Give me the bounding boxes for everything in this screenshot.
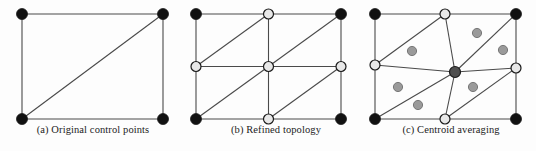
spoke-center-to-corner-top-right xyxy=(455,14,516,72)
node-midpoint-bottom xyxy=(264,114,274,124)
figure-container: (a) Original control points (b) Refined … xyxy=(0,0,536,151)
node-midpoint-top xyxy=(264,9,274,19)
centroid-marker-2 xyxy=(472,28,481,37)
node-corner-bottom-right xyxy=(158,114,169,125)
diagonal-quadrant-bottom-right xyxy=(269,67,342,120)
node-corner-bottom-left xyxy=(370,114,381,125)
node-midpoint-left xyxy=(191,62,201,72)
node-center-averaged xyxy=(450,67,461,78)
node-corner-top-right xyxy=(158,9,169,20)
centroid-marker-6 xyxy=(468,82,477,91)
centroid-marker-5 xyxy=(413,100,422,109)
node-midpoint-top xyxy=(440,9,450,19)
centroid-marker-4 xyxy=(393,82,402,91)
node-midpoint-left xyxy=(370,60,380,70)
node-corner-top-right xyxy=(336,9,347,20)
node-center xyxy=(264,62,274,72)
node-corner-top-left xyxy=(191,9,202,20)
diagonal-quadrant-top-right xyxy=(269,14,342,67)
panel-a-original-control-points: (a) Original control points xyxy=(0,0,186,151)
diagonal-quadrant-bottom-left xyxy=(196,67,269,120)
spoke-center-to-midpoint-right xyxy=(455,68,516,72)
node-corner-top-right xyxy=(511,9,522,20)
node-midpoint-bottom xyxy=(440,114,450,124)
node-midpoint-right xyxy=(511,63,521,73)
spoke-center-to-midpoint-left xyxy=(375,65,455,72)
node-corner-bottom-right xyxy=(336,114,347,125)
spoke-center-to-midpoint-bottom xyxy=(445,72,455,119)
diagonal-quadrant-top-left xyxy=(196,14,269,67)
spoke-center-to-midpoint-top xyxy=(445,14,455,72)
node-corner-top-left xyxy=(370,9,381,20)
node-midpoint-right xyxy=(336,62,346,72)
panel-a-caption: (a) Original control points xyxy=(0,124,186,135)
node-corner-top-left xyxy=(17,9,28,20)
centroid-marker-1 xyxy=(407,46,416,55)
centroid-marker-3 xyxy=(498,45,507,54)
node-corner-bottom-left xyxy=(17,114,28,125)
node-corner-bottom-right xyxy=(511,114,522,125)
panel-b-caption: (b) Refined topology xyxy=(186,124,366,135)
spoke-center-to-corner-bottom-left xyxy=(375,72,455,119)
node-corner-bottom-left xyxy=(191,114,202,125)
panel-a-diagram xyxy=(0,0,186,132)
panel-c-caption: (c) Centroid averaging xyxy=(366,124,536,135)
panel-c-centroid-averaging: (c) Centroid averaging xyxy=(366,0,536,151)
panel-c-diagram xyxy=(366,0,536,132)
edge-diagonal xyxy=(22,14,163,119)
chord-midpoint-left-to-midpoint-top xyxy=(375,14,445,65)
panel-b-refined-topology: (b) Refined topology xyxy=(186,0,366,151)
panel-b-diagram xyxy=(186,0,366,132)
